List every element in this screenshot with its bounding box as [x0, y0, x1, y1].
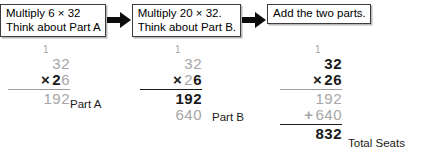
multiplier-row-total: ×26 — [280, 72, 342, 88]
flow-step-2-line1: Multiply 20 × 32. — [138, 7, 236, 21]
multiplier-row-b: ×26 — [140, 72, 202, 88]
vertical-algorithm-total: 1 32 ×26 192 +640 832 — [280, 44, 342, 142]
flow-step-2: Multiply 20 × 32. Think about Part B. — [132, 4, 241, 37]
flow-step-2-line2: Think about Part B. — [138, 21, 236, 35]
multiplicand-a: 32 — [8, 56, 70, 72]
multiplier-ones-b: 6 — [193, 71, 202, 88]
multiplier-tens-a: 2 — [52, 71, 61, 88]
grand-total: 832 — [280, 126, 342, 142]
partial-product-1-a: 192 — [8, 91, 70, 107]
plus-operator-total: + — [304, 106, 315, 123]
multiplier-ones-total: 6 — [333, 71, 342, 88]
flow-step-1-line1: Multiply 6 × 32 — [6, 7, 101, 21]
partial-product-2-b: 640 — [140, 107, 202, 123]
multiplier-row-a: ×26 — [8, 72, 70, 88]
column-part-a: 1 32 ×26 192 — [8, 44, 70, 107]
flowchart-row: Multiply 6 × 32 Think about Part A Multi… — [0, 0, 427, 44]
vertical-algorithm-part-b: 1 32 ×26 192 640 — [140, 44, 202, 123]
right-arrow-icon-1 — [106, 0, 132, 40]
worked-example-area: 1 32 ×26 192 Part A 1 32 ×26 192 640 Par… — [0, 44, 427, 153]
caption-total-seats: Total Seats — [348, 137, 405, 149]
flow-step-3-line1: Add the two parts. — [273, 7, 366, 21]
multiplicand-b: 32 — [140, 56, 202, 72]
multiplier-ones-a: 6 — [61, 71, 70, 88]
multiply-operator-total: × — [313, 71, 324, 88]
caption-part-b: Part B — [212, 111, 244, 123]
partial-product-2-row-total: +640 — [280, 107, 342, 123]
column-part-b: 1 32 ×26 192 640 — [140, 44, 202, 123]
column-total: 1 32 ×26 192 +640 832 — [280, 44, 342, 142]
vertical-algorithm-part-a: 1 32 ×26 192 — [8, 44, 70, 107]
flow-step-1: Multiply 6 × 32 Think about Part A — [0, 4, 106, 37]
partial-product-1-total: 192 — [280, 91, 342, 107]
right-arrow-icon-2 — [241, 0, 267, 40]
caption-part-a: Part A — [70, 98, 101, 110]
flow-step-1-line2: Think about Part A — [6, 21, 101, 35]
flow-step-3: Add the two parts. — [267, 4, 371, 24]
partial-product-1-b: 192 — [140, 91, 202, 107]
multiplier-tens-b: 2 — [184, 71, 193, 88]
partial-product-2-total: 640 — [315, 106, 342, 123]
multiplicand-total: 32 — [280, 56, 342, 72]
multiply-operator-b: × — [173, 71, 184, 88]
multiplier-tens-total: 2 — [324, 71, 333, 88]
multiply-operator-a: × — [41, 71, 52, 88]
